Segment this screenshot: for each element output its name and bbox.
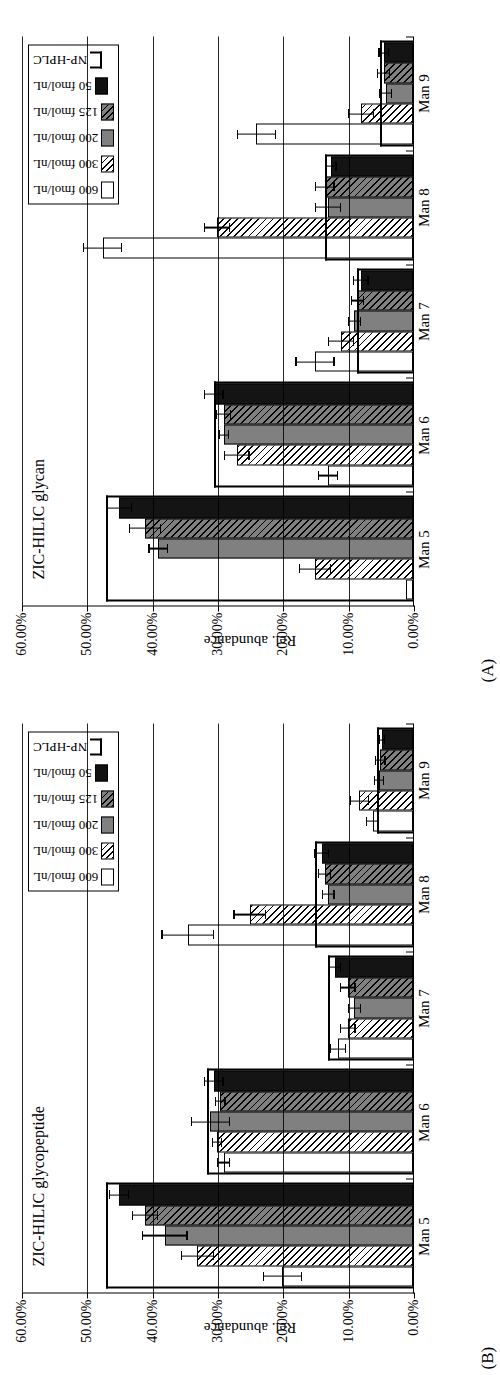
bar-200-fmol-nl[interactable] <box>354 310 413 330</box>
error-bar-cap-top <box>379 88 380 97</box>
error-bar-cap-top <box>233 910 234 919</box>
bar-200-fmol-nl[interactable] <box>158 538 413 558</box>
error-bar-cap-bottom <box>384 755 385 764</box>
error-bar <box>237 129 276 138</box>
error-bar-stem <box>348 113 374 114</box>
error-bar <box>129 523 162 532</box>
panel-b-y-tick: 10.00% <box>341 1299 357 1342</box>
panel-b-y-tick-mark <box>218 1292 219 1298</box>
error-bar-cap-bottom <box>301 1271 302 1280</box>
error-bar-cap-top <box>378 735 379 744</box>
bar-50-fmol-nl[interactable] <box>382 729 413 749</box>
error-bar-cap-bottom <box>275 129 276 138</box>
error-bar-cap-bottom <box>333 889 334 898</box>
error-bar-cap-top <box>295 357 296 366</box>
error-bar-cap-top <box>318 471 319 480</box>
error-bar-cap-top <box>378 48 379 57</box>
bar-600-fmol-nl[interactable] <box>103 237 413 257</box>
panel-b-y-tick: 40.00% <box>145 1299 161 1342</box>
error-bar-cap-top <box>204 223 205 232</box>
error-bar-stem <box>204 1080 224 1081</box>
bar-50-fmol-nl[interactable] <box>331 156 413 176</box>
error-bar-cap-bottom <box>378 816 379 825</box>
bar-50-fmol-nl[interactable] <box>335 957 413 977</box>
bar-600-fmol-nl[interactable] <box>224 1152 413 1172</box>
error-bar-cap-top <box>181 1251 182 1260</box>
bar-300-fmol-nl[interactable] <box>217 1131 413 1151</box>
bar-200-fmol-nl[interactable] <box>210 1111 413 1131</box>
bar-50-fmol-nl[interactable] <box>322 843 413 863</box>
error-bar-cap-top <box>328 336 329 345</box>
x-axis-group-separator <box>406 36 413 37</box>
bar-600-fmol-nl[interactable] <box>328 465 413 485</box>
bar-50-fmol-nl[interactable] <box>214 383 413 403</box>
error-bar-cap-bottom <box>373 109 374 118</box>
error-bar-cap-bottom <box>333 182 334 191</box>
bar-125-fmol-nl[interactable] <box>348 977 413 997</box>
bar-300-fmol-nl[interactable] <box>348 1018 413 1038</box>
bar-125-fmol-nl[interactable] <box>220 1091 413 1111</box>
error-bar-cap-top <box>299 564 300 573</box>
error-bar-cap-bottom <box>354 1023 355 1032</box>
error-bar-cap-bottom <box>265 910 266 919</box>
error-bar-stem <box>142 1235 188 1236</box>
error-bar <box>204 1076 224 1085</box>
bar-300-fmol-nl[interactable] <box>237 444 413 464</box>
error-bar-stem <box>237 133 276 134</box>
error-bar-cap-top <box>191 1117 192 1126</box>
x-axis-group-separator <box>406 723 413 724</box>
bar-50-fmol-nl[interactable] <box>214 1070 413 1090</box>
error-bar <box>212 1137 222 1146</box>
bar-200-fmol-nl[interactable] <box>354 997 413 1017</box>
error-bar <box>351 296 364 305</box>
bar-600-fmol-nl[interactable] <box>406 579 413 599</box>
bar-300-fmol-nl[interactable] <box>197 1245 413 1265</box>
error-bar <box>375 755 385 764</box>
error-bar-cap-top <box>375 755 376 764</box>
error-bar-cap-top <box>132 1210 133 1219</box>
bar-600-fmol-nl[interactable] <box>256 123 413 143</box>
error-bar-stem <box>129 527 162 528</box>
panel-a-y-tick-mark <box>414 605 415 611</box>
error-bar-cap-top <box>340 983 341 992</box>
panel-a-x-tick-labels: Man 5Man 6Man 7Man 8Man 9 <box>416 36 444 606</box>
bar-50-fmol-nl[interactable] <box>119 497 413 517</box>
bar-200-fmol-nl[interactable] <box>165 1225 413 1245</box>
bar-125-fmol-nl[interactable] <box>357 290 413 310</box>
error-bar-cap-bottom <box>335 162 336 171</box>
bar-125-fmol-nl[interactable] <box>145 1205 413 1225</box>
error-bar-cap-bottom <box>128 1190 129 1199</box>
bar-125-fmol-nl[interactable] <box>325 176 413 196</box>
error-bar-cap-top <box>204 1076 205 1085</box>
error-bar-stem <box>181 1255 214 1256</box>
bar-300-fmol-nl[interactable] <box>217 217 413 237</box>
error-bar-cap-bottom <box>340 202 341 211</box>
error-bar-cap-top <box>330 1044 331 1053</box>
error-bar-cap-top <box>322 889 323 898</box>
bar-200-fmol-nl[interactable] <box>328 884 413 904</box>
error-bar-cap-top <box>374 775 375 784</box>
bar-125-fmol-nl[interactable] <box>224 404 413 424</box>
bar-300-fmol-nl[interactable] <box>250 904 413 924</box>
panel-a-y-tick-mark <box>87 605 88 611</box>
error-bar <box>314 849 330 858</box>
bar-125-fmol-nl[interactable] <box>145 518 413 538</box>
bar-600-fmol-nl[interactable] <box>188 924 413 944</box>
error-bar-stem <box>299 568 332 569</box>
bar-50-fmol-nl[interactable] <box>119 1184 413 1204</box>
error-bar-stem <box>330 1048 346 1049</box>
bar-125-fmol-nl[interactable] <box>325 863 413 883</box>
error-bar <box>315 182 335 191</box>
bar-200-fmol-nl[interactable] <box>224 424 413 444</box>
error-bar-cap-bottom <box>368 796 369 805</box>
panel-a-y-tick-labels: 60.00%50.00%40.00%30.00%20.00%10.00%0.00… <box>22 608 414 670</box>
error-bar-stem <box>109 1194 129 1195</box>
error-bar-cap-bottom <box>360 1003 361 1012</box>
panel-a-gridline <box>87 36 88 605</box>
error-bar-cap-top <box>212 1137 213 1146</box>
error-bar-stem <box>191 1121 230 1122</box>
error-bar-stem <box>315 206 341 207</box>
panel-a-y-tick: 60.00% <box>14 612 30 655</box>
error-bar <box>378 48 388 57</box>
error-bar-cap-bottom <box>367 275 368 284</box>
